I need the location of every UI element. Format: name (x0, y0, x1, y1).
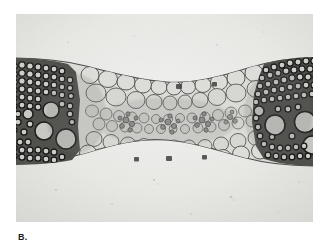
micrograph-image (16, 14, 313, 222)
micrograph-plate (16, 14, 313, 222)
figure-label: B. (18, 232, 27, 242)
page-canvas: B. (0, 0, 328, 251)
film-grain (16, 14, 313, 222)
